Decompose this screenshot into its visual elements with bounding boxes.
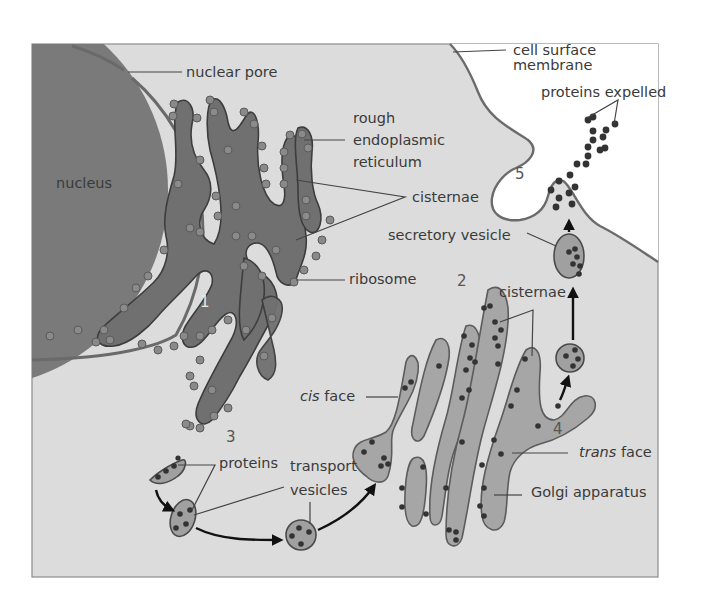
label-ribosome: ribosome (349, 271, 417, 287)
label-proteins: proteins (219, 455, 278, 471)
label-cell-membrane-2: membrane (513, 57, 592, 73)
label-proteins-expelled: proteins expelled (541, 84, 666, 100)
label-golgi-apparatus: Golgi apparatus (531, 484, 646, 500)
label-secretory-vesicle: secretory vesicle (388, 227, 511, 243)
step-1: 1 (200, 293, 210, 311)
label-er-cisternae: cisternae (412, 189, 479, 205)
step-4: 4 (553, 420, 563, 438)
label-golgi-cisternae: cisternae (499, 284, 566, 300)
label-transport-1: transport (290, 458, 357, 474)
label-nucleus: nucleus (56, 175, 112, 191)
label-cell-membrane-1: cell surface (513, 42, 596, 58)
step-5: 5 (515, 165, 525, 183)
label-rough-er-1: rough (353, 110, 395, 126)
label-nuclear-pore: nuclear pore (186, 64, 277, 80)
diagram-canvas: nuclear pore nucleus rough endoplasmic r… (0, 0, 709, 615)
step-3: 3 (226, 428, 236, 446)
step-2: 2 (457, 272, 467, 290)
label-trans-face: trans face (579, 444, 652, 460)
label-transport-2: vesicles (290, 482, 348, 498)
label-rough-er-3: reticulum (353, 154, 422, 170)
label-rough-er-2: endoplasmic (353, 132, 445, 148)
label-cis-face: cis face (300, 388, 355, 404)
